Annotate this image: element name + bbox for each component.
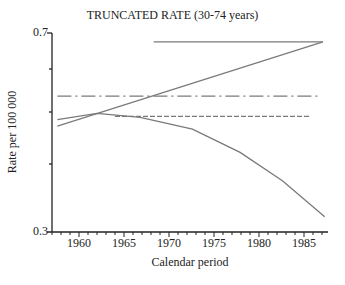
- series-line-0: [57, 113, 324, 216]
- x-ticks: [52, 232, 322, 237]
- plot-area: [0, 0, 345, 285]
- series-line-1: [57, 42, 323, 126]
- axes: [47, 33, 328, 232]
- data-series: [57, 42, 324, 217]
